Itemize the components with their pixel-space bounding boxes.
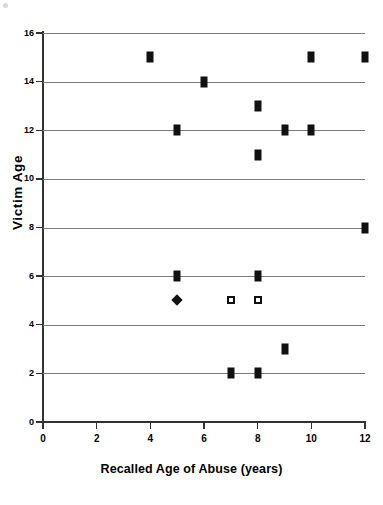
data-point-filled-square-6-14 — [201, 76, 208, 87]
x-tick-4 — [150, 422, 151, 429]
gridline-y-6 — [43, 276, 365, 277]
gridline-y-12 — [43, 130, 365, 131]
page-speckle — [3, 3, 8, 8]
y-tick-label-0: 0 — [0, 418, 34, 427]
x-axis-title: Recalled Age of Abuse (years) — [0, 462, 383, 476]
x-tick-label-0: 0 — [28, 434, 58, 444]
x-tick-label-10: 10 — [296, 434, 326, 444]
y-tick-label-8: 8 — [0, 223, 34, 232]
data-point-open-square-8-5 — [254, 296, 262, 304]
data-point-filled-square-8-2 — [254, 368, 261, 379]
plot-area — [43, 33, 365, 422]
x-tick-10 — [311, 422, 312, 429]
gridline-y-16 — [43, 33, 365, 34]
y-tick-6 — [36, 275, 43, 276]
y-tick-16 — [36, 32, 43, 33]
x-tick-12 — [364, 422, 365, 429]
gridline-y-8 — [43, 228, 365, 229]
data-point-filled-square-10-12 — [308, 125, 315, 136]
x-tick-label-6: 6 — [189, 434, 219, 444]
data-point-filled-square-9-12 — [281, 125, 288, 136]
x-tick-label-8: 8 — [243, 434, 273, 444]
data-point-filled-square-12-8 — [362, 222, 369, 233]
gridline-y-4 — [43, 325, 365, 326]
x-tick-label-2: 2 — [82, 434, 112, 444]
y-tick-12 — [36, 130, 43, 131]
y-axis-title: Victim Age — [10, 113, 25, 273]
y-tick-label-14: 14 — [0, 77, 34, 86]
data-point-filled-square-8-13 — [254, 100, 261, 111]
scatter-chart-figure: Victim Age Recalled Age of Abuse (years)… — [0, 0, 383, 505]
data-point-open-square-7-5 — [227, 296, 235, 304]
y-tick-2 — [36, 373, 43, 374]
y-tick-14 — [36, 81, 43, 82]
y-tick-8 — [36, 227, 43, 228]
x-tick-label-12: 12 — [350, 434, 380, 444]
y-tick-label-10: 10 — [0, 174, 34, 183]
data-point-filled-square-8-11 — [254, 149, 261, 160]
gridline-y-10 — [43, 179, 365, 180]
y-tick-label-4: 4 — [0, 320, 34, 329]
y-tick-label-6: 6 — [0, 272, 34, 281]
y-tick-4 — [36, 324, 43, 325]
data-point-filled-square-12-15 — [362, 52, 369, 63]
data-point-filled-square-7-2 — [227, 368, 234, 379]
x-tick-label-4: 4 — [135, 434, 165, 444]
x-tick-8 — [257, 422, 258, 429]
y-tick-label-2: 2 — [0, 369, 34, 378]
data-point-filled-square-4-15 — [147, 52, 154, 63]
data-point-filled-square-8-6 — [254, 271, 261, 282]
data-point-filled-square-9-3 — [281, 344, 288, 355]
y-tick-label-12: 12 — [0, 126, 34, 135]
x-tick-2 — [96, 422, 97, 429]
data-point-filled-square-5-6 — [174, 271, 181, 282]
gridline-y-2 — [43, 373, 365, 374]
data-point-filled-square-5-12 — [174, 125, 181, 136]
x-tick-0 — [42, 422, 43, 429]
y-tick-label-16: 16 — [0, 29, 34, 38]
data-point-filled-square-10-15 — [308, 52, 315, 63]
x-tick-6 — [203, 422, 204, 429]
y-tick-10 — [36, 178, 43, 179]
data-point-filled-diamond-5-5 — [171, 295, 182, 306]
